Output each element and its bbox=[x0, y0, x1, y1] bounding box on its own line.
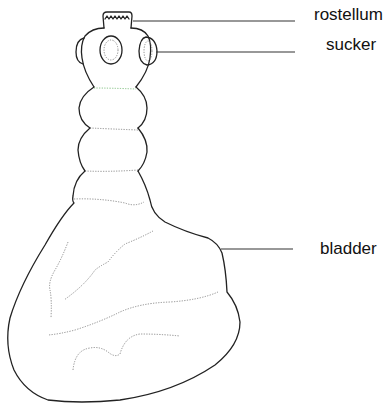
rostellum-label: rostellum bbox=[314, 6, 383, 23]
sucker-right bbox=[139, 37, 157, 65]
sucker-front bbox=[100, 36, 122, 64]
sucker-label: sucker bbox=[326, 36, 376, 53]
bladder-wrinkles bbox=[48, 231, 218, 370]
bladder-label: bladder bbox=[320, 240, 377, 257]
rostellum bbox=[103, 12, 132, 28]
body-outline bbox=[8, 28, 240, 402]
cysticercus-diagram bbox=[0, 0, 391, 408]
segment-boundaries bbox=[74, 88, 144, 205]
